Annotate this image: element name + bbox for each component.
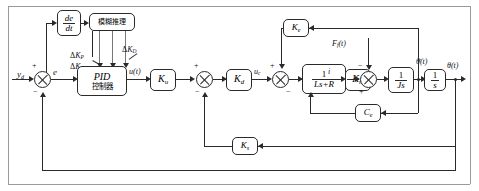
kd-main: K	[234, 73, 241, 84]
ku-block: Ku	[150, 69, 176, 91]
sum-torque-plus: +	[359, 88, 364, 96]
sum-voltage	[196, 71, 213, 88]
ks-block: Ks	[232, 137, 258, 155]
frame-left	[8, 6, 9, 184]
arrow-into-derivative	[52, 20, 57, 26]
sum-emf-plus: +	[270, 62, 275, 70]
label-disturbance: Ff(t)	[332, 40, 346, 49]
sum-voltage-plus: +	[194, 62, 199, 70]
wire-error-to-pid	[51, 79, 75, 80]
wire-ce-out	[310, 113, 355, 114]
arrow-ks-into-sum2	[202, 92, 208, 97]
derivative-numerator: de	[63, 14, 76, 23]
electrical-numerator: 1	[320, 70, 329, 79]
label-error: e	[53, 68, 57, 77]
integrator-block: 1s	[424, 69, 446, 91]
wire-ce-to-sum4	[310, 96, 311, 113]
kd-sub: d	[241, 78, 244, 85]
block-diagram-canvas: de dt 模糊推理 ΔKP ΔKI ΔKD yd + − e	[0, 0, 479, 191]
ku-main: K	[158, 73, 165, 84]
arrow-into-ce	[381, 110, 386, 116]
wire-error-to-fuzzy-vert	[92, 31, 93, 57]
wire-thetadot-tap-ce	[418, 79, 419, 113]
frame-right	[470, 6, 471, 184]
integrator-numerator: 1	[431, 71, 440, 80]
label-delta-kp: ΔKP	[70, 52, 84, 61]
wire-outer-feedback	[42, 170, 456, 171]
wire-thetadot-tap-ke	[418, 28, 419, 79]
wire-disturbance-in	[368, 38, 369, 66]
fuzzy-inference-label: 模糊推理	[98, 19, 126, 26]
sum-torque	[360, 71, 377, 88]
sum-voltage-minus: −	[195, 88, 200, 96]
sum-torque-minus: −	[358, 62, 363, 70]
arrow-into-sum-voltage	[190, 76, 195, 82]
arrow-into-fuzzy-from-derivative	[84, 20, 89, 26]
pid-label-top: PID	[94, 72, 111, 82]
ke-sub: e	[298, 27, 301, 33]
inertia-block: 1 Js	[388, 67, 414, 93]
wire-ks-to-sum2	[204, 96, 205, 146]
wire-fuzzy-out-ki	[112, 31, 113, 65]
wire-fuzzy-out-kp	[99, 31, 100, 65]
label-uc: uc	[254, 68, 260, 77]
arrow-into-ks	[258, 143, 263, 149]
label-current: i	[328, 68, 330, 76]
sum-emf	[272, 71, 289, 88]
derivative-block: de dt	[57, 10, 81, 36]
wire-ks-in	[258, 146, 455, 147]
frame-bottom	[8, 184, 470, 185]
integrator-denominator: s	[431, 80, 439, 90]
arrow-into-ke	[309, 25, 314, 31]
inertia-numerator: 1	[397, 71, 406, 80]
pid-controller-block: PID 控制器	[77, 66, 127, 96]
label-position: θ(t)	[447, 62, 458, 70]
arrow-outer-feedback-into-sum1	[40, 92, 46, 97]
wire-outer-feedback-left	[42, 96, 43, 170]
pid-label-bottom: 控制器	[92, 83, 113, 91]
wire-ks-out	[204, 146, 232, 147]
arrow-output	[461, 76, 466, 82]
wire-ke-to-sum3	[281, 28, 282, 66]
sum-error-plus: +	[32, 62, 37, 70]
ku-sub: u	[165, 78, 168, 85]
electrical-denominator: Ls+R	[312, 79, 336, 89]
arrow-disturbance-in	[366, 65, 372, 70]
ks-sub: s	[247, 145, 249, 151]
ce-sub: e	[370, 112, 373, 118]
label-u-of-t: u(t)	[129, 68, 141, 76]
wire-reference-in	[12, 79, 30, 80]
sum-error-minus: −	[33, 88, 38, 96]
arrow-ce-into-sum4	[308, 92, 314, 97]
wire-ks-tap	[455, 79, 456, 146]
sum-error	[34, 71, 51, 88]
wire-thetadot-to-ke	[309, 28, 418, 29]
arrow-ke-into-sum3	[279, 64, 285, 69]
ke-block: Ke	[283, 19, 309, 37]
ce-block: Ce	[355, 104, 381, 122]
fuzzy-inference-block: 模糊推理	[89, 13, 135, 31]
kd-block: Kd	[226, 69, 252, 91]
inertia-denominator: Js	[395, 80, 407, 90]
velocity-dot-mark: ·	[419, 56, 422, 64]
wire-error-to-derivative-vert	[46, 23, 47, 79]
wire-ce-in	[381, 113, 418, 114]
sum-emf-minus: −	[286, 88, 291, 96]
derivative-denominator: dt	[63, 23, 74, 33]
frame-top	[8, 6, 470, 7]
